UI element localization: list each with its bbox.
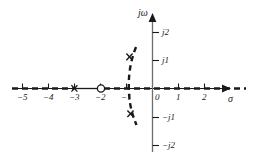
tick-label-pos2: 2 <box>202 93 207 102</box>
imag-axis-label: jω <box>138 8 148 18</box>
tick-label-pos1: 1 <box>176 93 181 102</box>
imag-axis <box>149 13 157 152</box>
tick-label-j2: j2 <box>162 28 169 37</box>
tick-label-neg4: −4 <box>43 93 54 102</box>
imag-axis-arrow-icon <box>149 13 157 22</box>
tick-label-neg5: −5 <box>17 93 28 102</box>
tick-label-negj1: −j1 <box>162 113 175 122</box>
tick-label-neg1: −1 <box>121 93 132 102</box>
tick-label-negj2: −j2 <box>162 141 175 150</box>
tick-label-j1: j1 <box>162 56 169 65</box>
root-locus-figure <box>0 0 254 163</box>
real-axis-label: σ <box>228 94 233 104</box>
tick-label-neg2: −2 <box>95 93 106 102</box>
tick-label-neg3: −3 <box>69 93 80 102</box>
tick-label-zero: 0 <box>155 93 160 102</box>
